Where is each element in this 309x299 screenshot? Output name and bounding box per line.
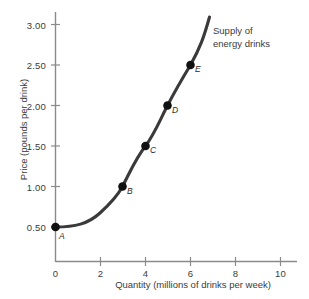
x-tick-label-4: 4 xyxy=(143,268,148,279)
x-tick-label-2: 2 xyxy=(98,268,103,279)
x-tick-label-6: 6 xyxy=(188,268,193,279)
data-point-e xyxy=(186,61,195,70)
y-tick-label-300: 3.00 xyxy=(4,19,46,30)
data-point-d xyxy=(163,101,172,110)
y-axis-title: Price (pounds per drink) xyxy=(18,45,29,215)
annotation-line-2: energy drinks xyxy=(213,37,270,50)
point-label-b: B xyxy=(127,186,133,196)
x-tick-label-8: 8 xyxy=(233,268,238,279)
y-tick-label-050: 0.50 xyxy=(4,222,46,233)
supply-curve-figure: 3.00 2.50 2.00 1.50 1.00 0.50 0 2 4 6 8 … xyxy=(0,0,309,299)
data-point-c xyxy=(141,142,150,151)
point-label-a: A xyxy=(59,231,65,241)
x-tick-label-10: 10 xyxy=(275,268,286,279)
point-label-c: C xyxy=(150,145,156,155)
data-point-b xyxy=(118,182,127,191)
data-point-a xyxy=(51,223,60,232)
x-tick-label-0: 0 xyxy=(53,268,58,279)
point-label-d: D xyxy=(172,105,178,115)
annotation-line-1: Supply of xyxy=(213,24,270,37)
data-point-markers xyxy=(51,61,195,232)
point-label-e: E xyxy=(195,64,201,74)
x-axis-title: Quantity (millions of drinks per week) xyxy=(78,279,308,290)
supply-curve-annotation: Supply of energy drinks xyxy=(213,24,270,50)
